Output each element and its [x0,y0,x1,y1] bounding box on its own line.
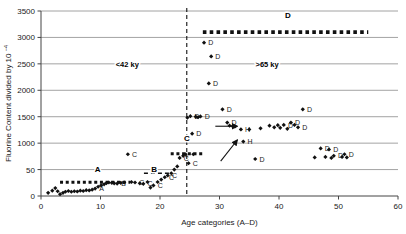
data-point-label: D [349,151,354,158]
era-right: >65 ky [256,60,280,69]
data-point-label: D [302,124,307,131]
data-point-label: D [259,156,264,163]
data-point-label: D [227,106,232,113]
data-point-label: C [193,160,198,167]
data-point-label: D [196,130,201,137]
data-point [175,164,179,168]
data-point [190,132,194,136]
data-point [301,107,305,111]
y-tick-label: 1500 [17,113,35,122]
data-point-label: C [132,151,137,158]
band-d: D [285,11,291,20]
data-point [46,191,50,195]
data-point [253,157,257,161]
x-tick-label: 60 [394,202,403,211]
data-point [50,189,54,193]
data-point-label: D [205,113,210,120]
y-tick-label: 2500 [17,60,35,69]
x-tick-label: 30 [215,202,224,211]
data-point [66,189,70,193]
fluorine-scatter-chart: 0501000150020002500300035000102030405060… [0,0,406,234]
data-point [87,188,91,192]
data-point [239,127,243,131]
x-axis-title: Age categories (A–D) [181,218,258,227]
data-point [126,152,130,156]
data-point [225,120,229,124]
era-left: <42 ky [116,60,140,69]
band-a: A [95,165,101,174]
x-tick-label: 20 [156,202,165,211]
data-point [272,125,276,129]
data-point [81,189,85,193]
band-b: B [151,165,157,174]
y-tick-label: 1000 [17,139,35,148]
y-tick-label: 2000 [17,86,35,95]
data-point-label: H [248,138,253,145]
data-point [209,54,213,58]
data-point-label: D [208,39,213,46]
x-tick-label: 0 [39,202,44,211]
x-tick-label: 10 [96,202,105,211]
y-axis-title: Fluorine Content divided by 10 −4 [3,45,13,162]
data-point [133,180,137,184]
data-point [53,186,57,190]
y-tick-label: 0 [31,192,36,201]
y-tick-label: 3500 [17,7,35,16]
data-point [313,155,317,159]
plot-area: 0501000150020002500300035000102030405060… [0,0,406,234]
band-c: C [184,134,190,143]
data-point-label: D [307,106,312,113]
data-point [258,126,262,130]
data-point [319,146,323,150]
data-point [267,124,271,128]
y-tick-label: 3000 [17,33,35,42]
data-point [56,189,60,193]
data-point [178,156,182,160]
svg-text:Fluorine Content divided by 10: Fluorine Content divided by 10 −4 [3,45,13,162]
y-tick-label: 50 [26,166,35,175]
data-point [202,41,206,45]
data-point [220,107,224,111]
data-point-label: D [215,53,220,60]
data-point-label: D [213,80,218,87]
data-point [75,189,79,193]
data-point [323,155,327,159]
data-point [207,81,211,85]
x-tick-label: 50 [334,202,343,211]
x-tick-label: 40 [275,202,284,211]
data-point [282,123,286,127]
